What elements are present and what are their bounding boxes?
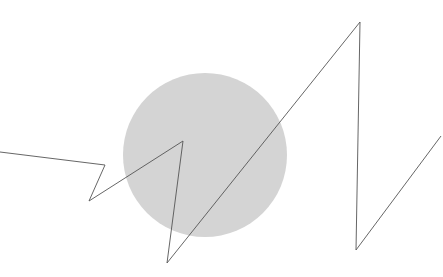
gray-circle-shape xyxy=(123,73,287,237)
abstract-vector-figure xyxy=(0,0,443,277)
figure-canvas xyxy=(0,0,443,277)
